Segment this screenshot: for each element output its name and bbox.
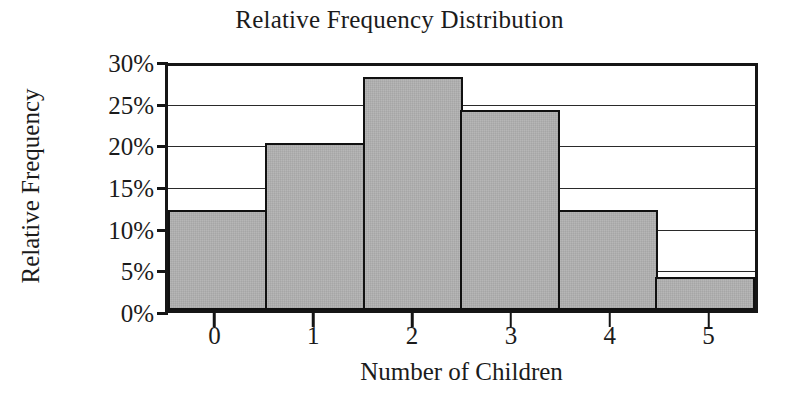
- y-axis-tick-label: 20%: [62, 134, 154, 159]
- y-axis-tick-mark: [157, 270, 168, 273]
- x-axis-tick-label: 4: [560, 322, 659, 356]
- chart-title: Relative Frequency Distribution: [0, 6, 799, 34]
- y-axis-title-wrapper: Relative Frequency: [8, 52, 54, 320]
- x-axis-tick-label: 3: [461, 322, 560, 356]
- bar-series: [168, 66, 755, 310]
- bar: [460, 110, 560, 310]
- y-axis-tick-label: 0%: [62, 301, 154, 326]
- y-axis-title: Relative Frequency: [17, 88, 45, 283]
- chart-figure: Relative Frequency Distribution Relative…: [0, 0, 799, 414]
- y-axis-tick-label: 10%: [62, 217, 154, 242]
- y-axis-tick-mark: [157, 145, 168, 148]
- x-axis-tick-labels: 012345: [165, 322, 758, 356]
- plot-inner: [168, 66, 755, 310]
- bar: [265, 143, 365, 310]
- x-axis-title: Number of Children: [165, 358, 758, 386]
- x-axis-tick-label: 5: [659, 322, 758, 356]
- y-axis-tick-mark: [157, 104, 168, 107]
- bar: [168, 210, 268, 310]
- plot-area: [165, 63, 758, 313]
- bar: [655, 277, 755, 310]
- x-axis-tick-label: 1: [264, 322, 363, 356]
- y-axis-tick-label: 5%: [62, 259, 154, 284]
- y-axis-tick-mark: [157, 62, 168, 65]
- x-axis-tick-label: 2: [363, 322, 462, 356]
- y-axis-tick-label: 15%: [62, 176, 154, 201]
- bar: [363, 77, 463, 310]
- x-axis-tick-label: 0: [165, 322, 264, 356]
- y-axis-tick-labels: 0%5%10%15%20%25%30%: [62, 63, 154, 313]
- y-axis-tick-label: 25%: [62, 92, 154, 117]
- y-axis-tick-label: 30%: [62, 51, 154, 76]
- y-axis-tick-mark: [157, 229, 168, 232]
- y-axis-tick-mark: [157, 187, 168, 190]
- bar: [558, 210, 658, 310]
